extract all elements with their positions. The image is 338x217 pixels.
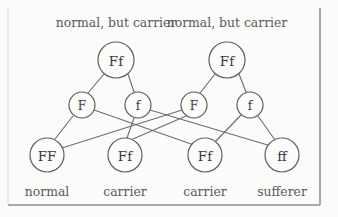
parent-phenotype-labels: normal, but carriernormal, but carrier: [56, 15, 288, 30]
parent-phenotype-label-1: normal, but carrier: [167, 15, 288, 30]
offspring-phenotype-label-1: carrier: [103, 184, 146, 199]
offspring-phenotype-label-2: carrier: [183, 184, 226, 199]
parent-phenotype-label-0: normal, but carrier: [56, 15, 177, 30]
pedigree-diagram: normal, but carriernormal, but carrier F…: [0, 0, 338, 217]
offspring-node-label-offspring-Ff-2: Ff: [198, 148, 213, 164]
offspring-node-label-offspring-ff: ff: [277, 148, 288, 164]
offspring-phenotype-label-3: sufferer: [257, 184, 307, 199]
punnett-pedigree-figure: normal, but carriernormal, but carrier F…: [0, 0, 338, 217]
offspring-phenotype-label-0: normal: [25, 184, 69, 199]
offspring-node-label-offspring-FF: FF: [38, 148, 57, 164]
parent-node-label-parent-left: Ff: [109, 53, 124, 69]
gamete-node-label-gamete-right-F: F: [190, 99, 198, 113]
parent-node-label-parent-right: Ff: [220, 53, 235, 69]
gamete-node-label-gamete-left-F: F: [78, 99, 86, 113]
offspring-node-label-offspring-Ff-1: Ff: [118, 148, 133, 164]
